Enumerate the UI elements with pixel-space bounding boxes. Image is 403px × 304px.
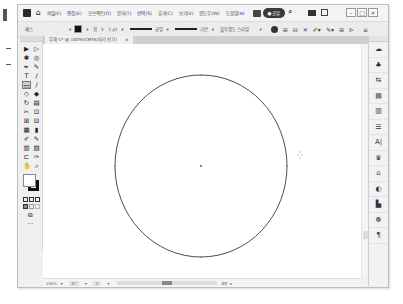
ellipse-tool-icon[interactable]: ▭ <box>22 81 31 89</box>
layers-panel-icon[interactable]: ▤ <box>369 89 388 105</box>
blob-brush-tool-icon[interactable]: ◆ <box>32 90 41 98</box>
links-panel-icon[interactable]: ⇆ <box>369 73 388 89</box>
close-button[interactable]: × <box>368 8 378 17</box>
rotation-dropdown[interactable]: ▾ <box>85 281 87 286</box>
character-panel-icon[interactable]: A| <box>369 135 388 151</box>
variable-width-profile-preview[interactable] <box>130 28 152 29</box>
maximize-button[interactable]: □ <box>357 8 367 17</box>
anchor-point-right[interactable] <box>286 165 287 166</box>
workspace-layout-icon[interactable] <box>321 9 328 16</box>
paragraph-panel-icon[interactable]: ¶ <box>369 228 388 244</box>
menu-type[interactable]: 문자(T) <box>117 10 131 16</box>
menu-object[interactable]: 오브젝트(O) <box>88 10 111 16</box>
menu-icon[interactable]: ≡ <box>363 26 368 33</box>
status-arrow-icon[interactable]: ▸ <box>230 281 232 286</box>
color-button[interactable] <box>23 197 28 202</box>
artboard-number-field[interactable]: 1 <box>93 281 101 286</box>
pen-tool-icon[interactable]: ✒ <box>22 63 31 71</box>
stroke-panel-icon[interactable]: ☰ <box>369 120 388 136</box>
anchor-point-left[interactable] <box>114 165 115 166</box>
artboard-dropdown[interactable]: ▾ <box>107 281 109 286</box>
menu-edit[interactable]: 편집(E) <box>67 10 82 16</box>
swatches-panel-icon[interactable]: ▥ <box>369 104 388 120</box>
appearance-panel-icon[interactable]: ⌂ <box>369 166 388 182</box>
align-panel-icon[interactable]: ▙ <box>369 197 388 213</box>
stroke-weight-dropdown[interactable]: ▾ <box>121 27 123 32</box>
search-icon[interactable]: ⌕ <box>288 7 292 17</box>
color-panel-icon[interactable]: ◐ <box>369 182 388 198</box>
gradient-tool-icon[interactable]: ▮ <box>32 126 41 134</box>
menu-select[interactable]: 선택(S) <box>137 10 152 16</box>
selection-tool-icon[interactable]: ▶ <box>22 45 31 53</box>
status-info-bar[interactable] <box>117 281 217 285</box>
fill-swatch[interactable] <box>23 174 36 187</box>
shape-icon[interactable]: ✎▾ <box>326 26 334 33</box>
perspective-grid-tool-icon[interactable]: ⊟ <box>32 117 41 125</box>
share-button[interactable]: ● 공유 <box>263 8 285 18</box>
draw-inside-button[interactable] <box>35 204 40 209</box>
hand-tool-icon[interactable]: ✋ <box>22 162 31 170</box>
paintbrush-tool-icon[interactable]: ∕ <box>32 81 41 89</box>
magic-wand-tool-icon[interactable]: ✱ <box>22 54 31 62</box>
menu-effect[interactable]: 효과(C) <box>158 10 173 16</box>
opacity-style-dropdown[interactable]: 불투명도 스타일 <box>220 26 249 32</box>
variable-width-arrow[interactable]: ▾ <box>167 27 169 32</box>
stroke-weight-stepper[interactable]: ⇕ <box>101 27 105 32</box>
menu-window[interactable]: 윈도우(W) <box>199 10 219 16</box>
lasso-tool-icon[interactable]: ◎ <box>32 54 41 62</box>
libraries-panel-icon[interactable]: ☁ <box>369 42 388 58</box>
arrange-documents-icon[interactable] <box>308 10 316 16</box>
menu-help[interactable]: 도움말(H) <box>226 10 245 16</box>
edit-toolbar-button[interactable]: ··· <box>26 220 35 228</box>
document-tab[interactable]: 무제-1* @ 100%(CMYK/미리 보기) × <box>45 36 133 44</box>
isolate-icon[interactable]: ✕ <box>303 26 308 33</box>
none-button[interactable] <box>35 197 40 202</box>
brush-definition-dropdown[interactable]: 기본 <box>200 26 208 32</box>
globe-icon[interactable] <box>271 26 278 33</box>
zoom-dropdown[interactable]: ▾ <box>61 281 63 286</box>
variable-width-dropdown[interactable]: 균일 <box>155 26 163 32</box>
anchor-point-bottom[interactable] <box>200 256 201 257</box>
symbol-sprayer-tool-icon[interactable]: ▥ <box>22 144 31 152</box>
minimize-button[interactable]: – <box>346 8 356 17</box>
workspace-panel-icon[interactable] <box>253 10 261 17</box>
slice-tool-icon[interactable]: ✑ <box>32 153 41 161</box>
opacity-style-arrow[interactable]: ▾ <box>259 27 261 32</box>
shape-builder-tool-icon[interactable]: ⊞ <box>22 117 31 125</box>
mesh-tool-icon[interactable]: ▦ <box>22 126 31 134</box>
recolor-icon[interactable]: ✐▾ <box>313 26 321 33</box>
free-transform-tool-icon[interactable]: ⊡ <box>32 108 41 116</box>
pathfinder-panel-icon[interactable]: ☸ <box>369 213 388 229</box>
draw-normal-button[interactable] <box>23 204 28 209</box>
artboard-canvas[interactable] <box>43 44 361 278</box>
symbols-panel-icon[interactable]: ♛ <box>369 151 388 167</box>
status-scroll-thumb[interactable] <box>162 281 172 285</box>
rotation-field[interactable]: 0° <box>69 281 79 286</box>
flag-icon[interactable]: ⊳ <box>349 26 354 33</box>
gradient-button[interactable] <box>29 197 34 202</box>
line-segment-tool-icon[interactable]: ∕ <box>32 72 41 80</box>
zoom-level[interactable]: 100% <box>46 281 57 286</box>
properties-panel-icon[interactable]: ♣ <box>369 58 388 74</box>
anchor-point-top[interactable] <box>200 74 201 75</box>
circle-center-point[interactable] <box>200 165 202 167</box>
menu-view[interactable]: 보기(V) <box>179 10 194 16</box>
eyedropper-tool-icon[interactable]: ✐ <box>22 135 31 143</box>
stroke-dropdown-arrow[interactable]: ▾ <box>86 27 88 32</box>
artboard-tool-icon[interactable]: ⊏ <box>22 153 31 161</box>
screen-mode-icon[interactable]: ⧉ <box>26 211 35 219</box>
brush-definition-preview[interactable] <box>175 28 197 29</box>
transform-icon[interactable]: ⊟ <box>293 26 298 33</box>
shaper-tool-icon[interactable]: ◇ <box>22 90 31 98</box>
grid-icon[interactable]: ⊞ <box>339 26 344 33</box>
scissors-tool-icon[interactable]: ✂ <box>22 108 31 116</box>
menu-file[interactable]: 파일(F) <box>47 10 61 16</box>
close-tab-icon[interactable]: × <box>125 36 129 44</box>
stroke-weight-field[interactable]: 1 pt <box>108 27 117 32</box>
home-icon[interactable]: ⌂ <box>36 9 41 17</box>
blend-tool-icon[interactable]: ✎ <box>32 135 41 143</box>
type-tool-icon[interactable]: T <box>22 72 31 80</box>
column-graph-tool-icon[interactable]: ▧ <box>32 144 41 152</box>
brush-definition-arrow[interactable]: ▾ <box>212 27 214 32</box>
scale-tool-icon[interactable]: ▤ <box>32 99 41 107</box>
